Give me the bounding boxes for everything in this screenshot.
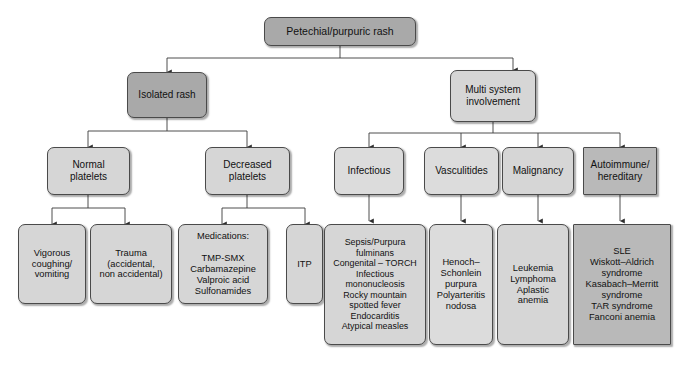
node-label: Multi system involvement [465, 84, 521, 108]
node-label: Infectious [348, 165, 391, 177]
leaf-vasculitides-causes[interactable]: Henoch– Schonlein purpura Polyarteritis … [429, 224, 493, 345]
node-malignancy[interactable]: Malignancy [502, 147, 574, 195]
node-infectious[interactable]: Infectious [334, 147, 404, 195]
leaf-label: Henoch– Schonlein purpura Polyarteritis … [437, 257, 486, 312]
node-label: Isolated rash [138, 89, 195, 101]
node-isolated-rash[interactable]: Isolated rash [127, 72, 207, 118]
node-label: Autoimmune/ hereditary [591, 159, 650, 183]
leaf-label: Leukemia Lymphoma Aplastic anemia [510, 263, 556, 307]
node-label: Petechial/purpuric rash [286, 25, 393, 37]
node-label: Normal platelets [70, 159, 107, 183]
node-normal-platelets[interactable]: Normal platelets [47, 147, 130, 195]
leaf-autoimmune-hereditary-causes[interactable]: SLE Wiskott–Aldrich syndrome Kasabach–Me… [573, 224, 671, 345]
node-label: Decreased platelets [223, 159, 271, 183]
node-vasculitides[interactable]: Vasculitides [424, 147, 499, 195]
leaf-label: Trauma (accidental, non accidental) [99, 248, 162, 281]
leaf-label: ITP [297, 259, 311, 270]
node-label: Vasculitides [435, 165, 488, 177]
leaf-vigorous-coughing-vomiting[interactable]: Vigorous coughing/ vomiting [18, 224, 86, 304]
node-multi-system-involvement[interactable]: Multi system involvement [450, 70, 536, 122]
node-label: Malignancy [513, 165, 564, 177]
leaf-label: Vigorous coughing/ vomiting [32, 248, 72, 281]
leaf-malignancy-causes[interactable]: Leukemia Lymphoma Aplastic anemia [497, 224, 569, 345]
leaf-label: Sepsis/Purpura fulminans Congenital – TO… [333, 237, 417, 332]
leaf-trauma[interactable]: Trauma (accidental, non accidental) [90, 224, 172, 304]
flowchart-canvas: Petechial/purpuric rash Isolated rash Mu… [0, 0, 680, 367]
node-petechial-purpuric-rash[interactable]: Petechial/purpuric rash [264, 17, 416, 46]
node-autoimmune-hereditary[interactable]: Autoimmune/ hereditary [583, 147, 657, 195]
leaf-label: SLE Wiskott–Aldrich syndrome Kasabach–Me… [586, 246, 659, 323]
leaf-infectious-causes[interactable]: Sepsis/Purpura fulminans Congenital – TO… [324, 224, 426, 345]
leaf-label: Medications: TMP-SMX Carbamazepine Valpr… [190, 231, 256, 297]
leaf-medications[interactable]: Medications: TMP-SMX Carbamazepine Valpr… [178, 224, 268, 304]
node-decreased-platelets[interactable]: Decreased platelets [205, 147, 290, 195]
leaf-itp[interactable]: ITP [286, 224, 323, 304]
